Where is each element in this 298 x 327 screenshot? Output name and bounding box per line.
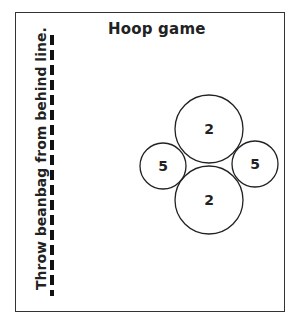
hoop-top-points: 2: [204, 121, 214, 137]
hoop-left: 5: [140, 143, 186, 189]
hoop-right: 5: [232, 141, 278, 187]
hoop-top: 2: [175, 95, 243, 163]
hoop-bottom: 2: [175, 166, 243, 234]
hoop-bottom-points: 2: [204, 192, 214, 208]
hoop-diagram: 2 2 5 5: [0, 0, 298, 327]
hoop-left-points: 5: [158, 158, 168, 174]
hoop-right-points: 5: [250, 156, 260, 172]
